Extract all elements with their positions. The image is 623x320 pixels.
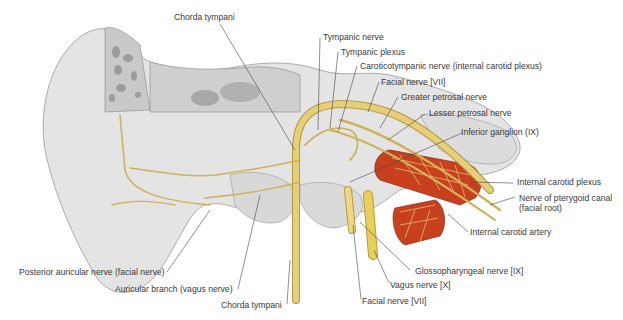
label-facial-nerve-bottom: Facial nerve [VII] bbox=[362, 296, 426, 306]
label-auricular-branch: Auricular branch (vagus nerve) bbox=[115, 284, 233, 294]
label-glossopharyngeal-nerve: Glossopharyngeal nerve [IX] bbox=[415, 266, 523, 276]
label-tympanic-plexus: Tympanic plexus bbox=[341, 47, 405, 57]
label-internal-carotid-artery: Internal carotid artery bbox=[470, 227, 551, 237]
label-tympanic-nerve: Tympanic nerve bbox=[323, 32, 384, 42]
label-greater-petrosal-nerve: Greater petrosal nerve bbox=[401, 92, 487, 102]
label-nerve-pterygoid-canal: Nerve of pterygoid canal bbox=[519, 193, 612, 203]
label-facial-nerve-top: Facial nerve [VII] bbox=[381, 77, 445, 87]
label-caroticotympanic-nerve: Caroticotympanic nerve (internal carotid… bbox=[360, 61, 542, 71]
label-chorda-tympani-top: Chorda tympani bbox=[174, 12, 235, 22]
label-posterior-auricular-nerve: Posterior auricular nerve (facial nerve) bbox=[19, 267, 165, 277]
label-nerve-pterygoid-canal-sub: (facial root) bbox=[519, 203, 562, 213]
label-chorda-tympani-bottom: Chorda tympani bbox=[221, 300, 282, 310]
anatomy-figure: Chorda tympani Tympanic nerve Tympanic p… bbox=[0, 0, 623, 320]
label-vagus-nerve: Vagus nerve [X] bbox=[390, 280, 451, 290]
label-internal-carotid-plexus: Internal carotid plexus bbox=[517, 177, 601, 187]
label-lesser-petrosal-nerve: Lesser petrosal nerve bbox=[429, 108, 512, 118]
label-inferior-ganglion: Inferior ganglion (IX) bbox=[461, 127, 539, 137]
